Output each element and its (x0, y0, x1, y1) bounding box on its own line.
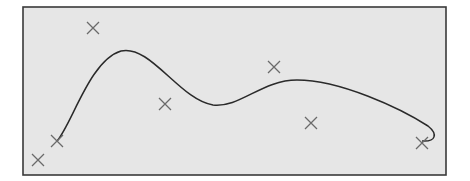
plot-canvas (0, 0, 470, 181)
scatter-plot-figure (0, 0, 470, 181)
plot-frame (23, 7, 446, 175)
